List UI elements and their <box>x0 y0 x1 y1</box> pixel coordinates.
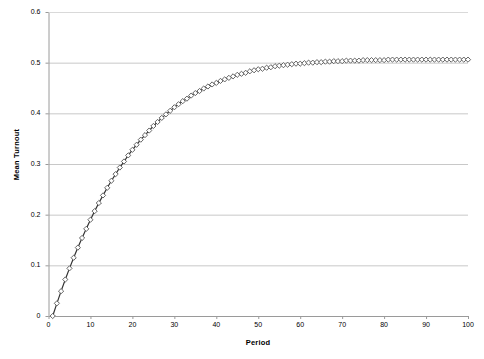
data-point-marker <box>75 245 80 250</box>
x-tick-label: 50 <box>243 321 273 329</box>
y-tick-label: 0.4 <box>7 109 41 117</box>
data-point-marker <box>105 185 110 190</box>
y-tick-label: 0 <box>7 312 41 320</box>
x-tick-label: 10 <box>75 321 105 329</box>
y-tick-label: 0.3 <box>7 160 41 168</box>
x-tick-label: 100 <box>453 321 483 329</box>
chart-container: Mean Turnout 00.10.20.30.40.50.6 0102030… <box>0 0 484 359</box>
chart-plot-area <box>0 0 484 359</box>
x-tick-label: 0 <box>34 321 64 329</box>
data-point-marker <box>100 193 105 198</box>
data-point-marker <box>96 200 101 205</box>
data-point-marker <box>92 209 97 214</box>
y-tick-label: 0.2 <box>7 211 41 219</box>
data-point-marker <box>50 313 55 318</box>
data-point-marker <box>88 217 93 222</box>
data-point-marker <box>54 301 59 306</box>
data-point-marker <box>465 57 470 62</box>
data-point-marker <box>71 255 76 260</box>
series-line-0 <box>53 60 468 316</box>
data-point-marker <box>84 226 89 231</box>
x-tick-label: 60 <box>285 321 315 329</box>
y-tick-label: 0.1 <box>7 261 41 269</box>
y-tick-label: 0.5 <box>7 59 41 67</box>
series-markers-0 <box>50 57 471 319</box>
x-tick-label: 30 <box>159 321 189 329</box>
x-tick-label: 80 <box>369 321 399 329</box>
x-tick-label: 70 <box>327 321 357 329</box>
data-point-marker <box>63 277 68 282</box>
x-tick-label: 90 <box>411 321 441 329</box>
x-axis-title: Period <box>48 338 468 347</box>
y-tick-label: 0.6 <box>7 8 41 16</box>
data-point-marker <box>79 235 84 240</box>
x-tick-label: 40 <box>201 321 231 329</box>
data-point-marker <box>58 289 63 294</box>
x-tick-label: 20 <box>117 321 147 329</box>
data-point-marker <box>67 266 72 271</box>
